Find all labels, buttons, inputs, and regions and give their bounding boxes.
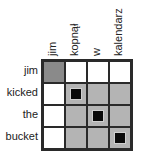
cell-kicked-kopnal [65,83,87,105]
cell-the-kalendarz [109,105,131,127]
row-label-jim: jim [0,59,38,81]
column-label-w: w [85,0,107,58]
column-label-kopnal: kopnął [63,0,85,58]
alignment-grid [41,59,133,151]
alignment-mark [70,88,82,100]
row-label-bucket: bucket [0,125,38,147]
cell-jim-kopnal [65,61,87,83]
cell-kicked-kalendarz [109,83,131,105]
cell-the-jim [43,105,65,127]
row-label-kicked: kicked [0,81,38,103]
row-label-the: the [0,103,38,125]
column-label-text: kalendarz [113,8,124,56]
column-label-text: w [91,48,102,56]
cell-kicked-jim [43,83,65,105]
cell-jim-w [87,61,109,83]
column-label-jim: jim [41,0,63,58]
alignment-mark [114,132,126,144]
cell-kicked-w [87,83,109,105]
cell-the-kopnal [65,105,87,127]
column-label-text: kopnął [69,24,80,56]
column-label-text: jim [47,42,58,56]
cell-jim-jim [43,61,65,83]
cell-bucket-jim [43,127,65,149]
cell-bucket-kalendarz [109,127,131,149]
cell-jim-kalendarz [109,61,131,83]
cell-bucket-w [87,127,109,149]
cell-the-w [87,105,109,127]
cell-bucket-kopnal [65,127,87,149]
column-label-kalendarz: kalendarz [107,0,129,58]
alignment-mark [92,110,104,122]
